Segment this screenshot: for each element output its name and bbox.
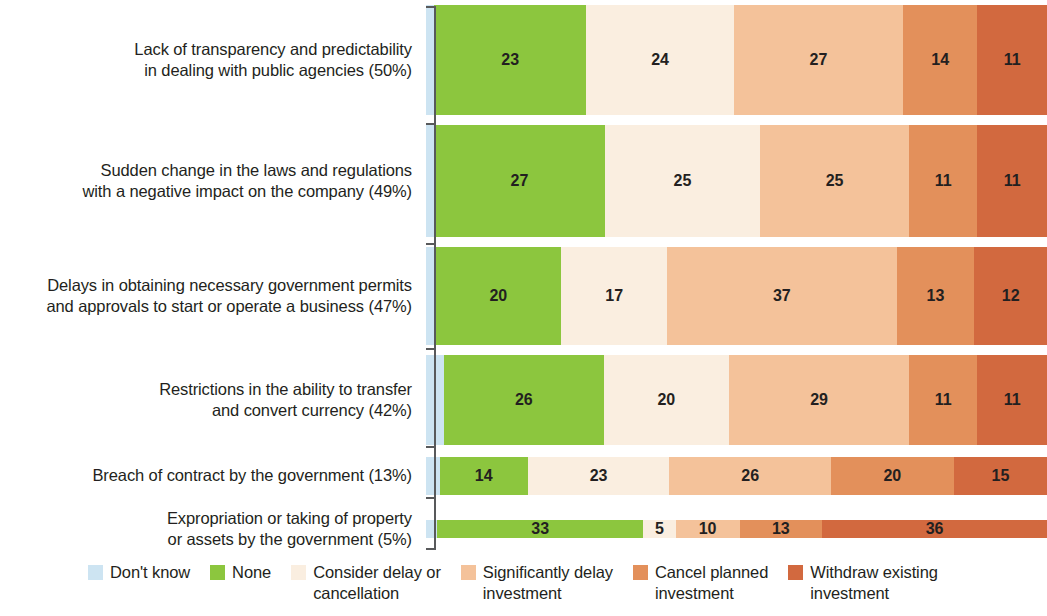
stacked-bar[interactable]: 1423262015 xyxy=(426,457,1047,495)
legend-label: Withdraw existing investment xyxy=(810,562,938,604)
bar-segment-value: 20 xyxy=(657,391,675,409)
legend-item[interactable]: Cancel planned investment xyxy=(633,562,768,604)
legend-item[interactable]: None xyxy=(210,562,271,583)
legend-swatch-icon xyxy=(210,565,225,580)
bar-segment-value: 17 xyxy=(605,287,623,305)
chart-row: Breach of contract by the government (13… xyxy=(0,450,1047,502)
chart-row: Expropriation or taking of property or a… xyxy=(0,502,1047,556)
legend-swatch-icon xyxy=(461,565,476,580)
bar-segment[interactable]: 29 xyxy=(729,355,909,445)
chart-row: Restrictions in the ability to transfer … xyxy=(0,350,1047,450)
bar-segment[interactable]: 27 xyxy=(734,5,903,115)
bar-segment-value: 23 xyxy=(590,467,608,485)
bar-segment[interactable]: 20 xyxy=(604,355,729,445)
bar-segment[interactable] xyxy=(426,247,435,345)
chart-row: Lack of transparency and predictability … xyxy=(0,0,1047,120)
bar-container: 2725251111 xyxy=(426,120,1047,242)
bar-segment-value: 26 xyxy=(741,467,759,485)
bar-segment[interactable] xyxy=(426,125,434,237)
bar-segment-value: 20 xyxy=(489,287,507,305)
bar-segment-value: 27 xyxy=(810,51,828,69)
bar-container: 2017371312 xyxy=(426,242,1047,350)
stacked-bar[interactable]: 2620291111 xyxy=(426,355,1047,445)
bar-segment[interactable] xyxy=(426,520,437,538)
bar-segment[interactable] xyxy=(426,355,444,445)
bar-segment-value: 24 xyxy=(651,51,669,69)
bar-segment[interactable]: 11 xyxy=(977,125,1047,237)
bar-segment[interactable]: 25 xyxy=(605,125,760,237)
chart-rows: Lack of transparency and predictability … xyxy=(0,0,1047,556)
legend-label: None xyxy=(232,562,271,583)
bar-segment[interactable]: 11 xyxy=(909,355,977,445)
bar-segment[interactable]: 23 xyxy=(434,5,586,115)
bar-segment[interactable]: 24 xyxy=(586,5,734,115)
legend-item[interactable]: Withdraw existing investment xyxy=(788,562,938,604)
bar-segment[interactable]: 15 xyxy=(954,457,1047,495)
bar-segment[interactable]: 10 xyxy=(676,520,740,538)
bar-segment-value: 12 xyxy=(1002,287,1020,305)
chart-row: Delays in obtaining necessary government… xyxy=(0,242,1047,350)
bar-segment[interactable]: 27 xyxy=(434,125,605,237)
bar-segment[interactable]: 13 xyxy=(740,520,823,538)
stacked-bar[interactable]: 2324271411 xyxy=(426,5,1047,115)
bar-segment[interactable]: 25 xyxy=(760,125,909,237)
legend-swatch-icon xyxy=(88,565,103,580)
legend-label: Don't know xyxy=(110,562,190,583)
legend-label: Cancel planned investment xyxy=(655,562,768,604)
legend-item[interactable]: Don't know xyxy=(88,562,190,583)
plot-area: Lack of transparency and predictability … xyxy=(0,0,1047,556)
bar-segment-value: 25 xyxy=(826,172,844,190)
bar-segment-value: 20 xyxy=(883,467,901,485)
bar-segment[interactable]: 12 xyxy=(974,247,1047,345)
stacked-bar-chart: Lack of transparency and predictability … xyxy=(0,0,1047,616)
bar-segment[interactable]: 11 xyxy=(909,125,977,237)
bar-segment[interactable]: 37 xyxy=(667,247,897,345)
legend-label: Consider delay or cancellation xyxy=(313,562,441,604)
bar-segment-value: 13 xyxy=(927,287,945,305)
bar-segment-value: 14 xyxy=(931,51,949,69)
legend-swatch-icon xyxy=(291,565,306,580)
bar-segment-value: 25 xyxy=(674,172,692,190)
bar-segment[interactable]: 33 xyxy=(437,520,643,538)
bar-segment[interactable] xyxy=(426,457,440,495)
bar-segment[interactable] xyxy=(426,5,434,115)
bar-segment[interactable]: 26 xyxy=(444,355,604,445)
bar-container: 2324271411 xyxy=(426,0,1047,120)
bar-segment-value: 5 xyxy=(655,520,664,538)
bar-segment[interactable]: 14 xyxy=(440,457,528,495)
category-label: Restrictions in the ability to transfer … xyxy=(0,379,426,422)
legend-item[interactable]: Consider delay or cancellation xyxy=(291,562,441,604)
bar-segment-value: 11 xyxy=(935,172,952,190)
bar-segment[interactable]: 17 xyxy=(561,247,667,345)
legend-label: Significantly delay investment xyxy=(483,562,613,604)
bar-segment-value: 23 xyxy=(501,51,519,69)
bar-segment-value: 11 xyxy=(935,391,952,409)
bar-segment[interactable]: 20 xyxy=(831,457,954,495)
stacked-bar[interactable]: 2017371312 xyxy=(426,247,1047,345)
chart-legend: Don't knowNoneConsider delay or cancella… xyxy=(0,556,1047,616)
bar-segment[interactable]: 11 xyxy=(977,5,1047,115)
category-label: Delays in obtaining necessary government… xyxy=(0,275,426,318)
bar-segment[interactable]: 5 xyxy=(643,520,675,538)
bar-segment-value: 26 xyxy=(515,391,533,409)
bar-segment[interactable]: 20 xyxy=(435,247,561,345)
bar-segment[interactable]: 23 xyxy=(528,457,670,495)
legend-item[interactable]: Significantly delay investment xyxy=(461,562,613,604)
bar-segment-value: 13 xyxy=(772,520,790,538)
bar-segment[interactable]: 26 xyxy=(669,457,830,495)
bar-segment-value: 29 xyxy=(810,391,828,409)
category-label: Lack of transparency and predictability … xyxy=(0,39,426,82)
bar-segment[interactable]: 11 xyxy=(977,355,1047,445)
bar-segment[interactable]: 36 xyxy=(822,520,1047,538)
bar-segment-value: 11 xyxy=(1004,391,1021,409)
category-label: Sudden change in the laws and regulation… xyxy=(0,160,426,203)
stacked-bar[interactable]: 335101336 xyxy=(426,520,1047,538)
stacked-bar[interactable]: 2725251111 xyxy=(426,125,1047,237)
bar-segment[interactable]: 14 xyxy=(903,5,978,115)
bar-segment[interactable]: 13 xyxy=(897,247,975,345)
legend-swatch-icon xyxy=(788,565,803,580)
chart-row: Sudden change in the laws and regulation… xyxy=(0,120,1047,242)
bar-segment-value: 11 xyxy=(1004,172,1021,190)
bar-segment-value: 33 xyxy=(531,520,549,538)
bar-container: 2620291111 xyxy=(426,350,1047,450)
